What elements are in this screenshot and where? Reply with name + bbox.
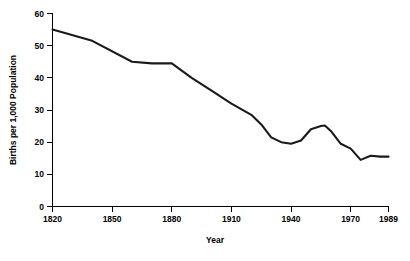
- y-tick-marks: [47, 14, 53, 207]
- data-series-line: [53, 30, 389, 160]
- y-axis-title: Births per 1,000 Population: [8, 55, 18, 165]
- y-tick-label: 60: [35, 9, 45, 19]
- line-chart-canvas: 0 10 20 30 40 50 60 1820 1850 1880 1910 …: [0, 0, 410, 261]
- y-tick-label: 50: [35, 41, 45, 51]
- x-tick-label: 1970: [341, 214, 360, 224]
- x-tick-labels: 1820 1850 1880 1910 1940 1970 1989: [43, 214, 398, 224]
- x-tick-marks: [53, 207, 389, 213]
- x-tick-label: 1880: [162, 214, 181, 224]
- chart-figure: 0 10 20 30 40 50 60 1820 1850 1880 1910 …: [0, 0, 410, 261]
- x-tick-label: 1820: [43, 214, 62, 224]
- x-tick-label: 1850: [103, 214, 122, 224]
- x-axis-title: Year: [206, 235, 225, 245]
- y-tick-label: 30: [35, 105, 45, 115]
- y-tick-label: 20: [35, 137, 45, 147]
- y-tick-labels: 0 10 20 30 40 50 60: [35, 9, 45, 212]
- y-tick-label: 40: [35, 73, 45, 83]
- y-tick-label: 0: [39, 202, 44, 212]
- x-tick-label: 1940: [282, 214, 301, 224]
- x-tick-label: 1910: [222, 214, 241, 224]
- y-tick-label: 10: [35, 169, 45, 179]
- x-tick-label: 1989: [379, 214, 398, 224]
